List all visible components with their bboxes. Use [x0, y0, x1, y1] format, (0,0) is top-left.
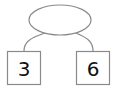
whole-node: [29, 5, 91, 35]
number-bond-diagram: 3 6: [0, 0, 117, 92]
connector-left: [24, 33, 45, 51]
part-label-left: 3: [18, 57, 31, 81]
part-label-right: 6: [87, 57, 100, 81]
connector-right: [76, 33, 93, 51]
whole-ellipse: [29, 5, 91, 35]
part-node-right: 6: [77, 52, 110, 85]
part-node-left: 3: [8, 52, 41, 85]
